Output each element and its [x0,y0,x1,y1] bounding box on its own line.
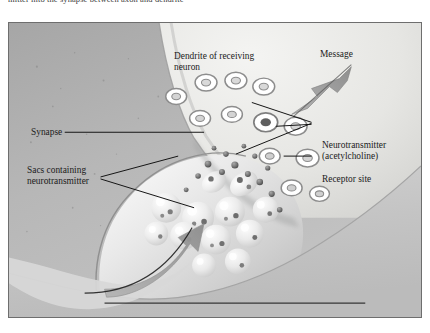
caption-top-cutoff: mitter into the synapse between axon and… [8,0,308,4]
receptor-site [310,186,330,201]
label-receptor-site: Receptor site [322,174,371,185]
receptor-site [296,149,319,167]
vesicle [253,197,279,223]
label-dendrite-of-receiving-neuron: Dendrite of receiving neuron [174,51,254,74]
figure-page: mitter into the synapse between axon and… [0,0,430,333]
receptor-site-occupied [254,113,278,132]
receptor-site [190,110,211,126]
label-synapse: Synapse [31,127,62,138]
synapse-figure: Dendrite of receiving neuron Message Syn… [8,22,422,318]
receptor-site [253,78,275,95]
label-sacs-containing-neurotransmitter: Sacs containing neurotransmitter [27,165,89,188]
vesicle [192,253,216,277]
vesicle [201,225,231,255]
vesicle [151,193,181,223]
receptor-site [195,74,217,91]
receptor-site [281,180,302,196]
receptor-site [221,106,242,122]
receptor-site [166,89,187,105]
receptor-site [225,72,247,89]
receptor-site [259,148,280,164]
label-neurotransmitter-acetylcholine: Neurotransmitter (acetylcholine) [322,140,386,163]
vesicle [225,248,251,274]
vesicle [236,220,264,248]
vesicle [144,222,168,246]
vesicle [215,197,245,227]
label-message: Message [320,49,353,60]
